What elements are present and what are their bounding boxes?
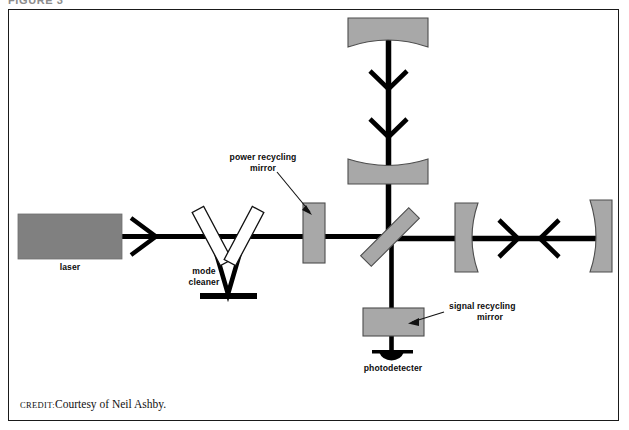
signal-recycling-mirror-label-line1: signal recycling	[449, 301, 516, 312]
laser-label: laser	[44, 262, 96, 273]
photodetector-label: photodetecter	[343, 363, 443, 374]
laser-source	[18, 214, 122, 259]
credit-line: CREDIT:Courtesy of Neil Ashby.	[20, 398, 166, 410]
figure-page: FIGURE 3	[0, 0, 629, 430]
power-recycling-mirror-label-line1: power recycling	[211, 152, 315, 163]
mode-cleaner-end-mirror	[200, 293, 257, 299]
credit-text: Courtesy of Neil Ashby.	[55, 398, 166, 410]
photodetector	[379, 352, 404, 360]
power-recycling-mirror-label-line2: mirror	[211, 163, 315, 174]
interferometer-diagram	[0, 0, 629, 430]
mode-cleaner-label-line2: cleaner	[175, 277, 233, 288]
power-recycling-callout-arrow	[277, 172, 312, 215]
mode-cleaner-label-line1: mode	[175, 266, 233, 277]
signal-recycling-mirror-label-line2: mirror	[449, 312, 531, 323]
credit-keyword: CREDIT:	[20, 400, 55, 410]
